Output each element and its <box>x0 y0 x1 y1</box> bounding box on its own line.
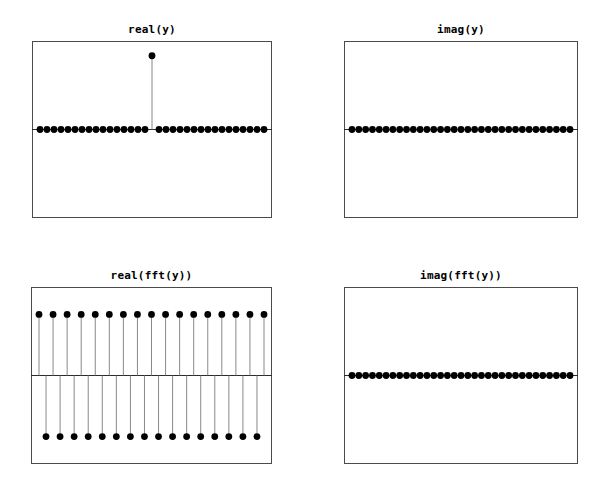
data-point-marker <box>567 126 574 133</box>
data-point-marker <box>498 372 505 379</box>
data-point-marker <box>205 126 212 133</box>
data-point-marker <box>71 433 78 440</box>
data-point-marker <box>464 126 471 133</box>
data-point-marker <box>505 372 512 379</box>
data-point-marker <box>240 126 247 133</box>
data-point-marker <box>225 433 232 440</box>
data-point-marker <box>526 372 533 379</box>
data-point-marker <box>492 372 499 379</box>
data-point-marker <box>219 126 226 133</box>
data-point-marker <box>349 372 356 379</box>
data-point-marker <box>437 372 444 379</box>
data-point-marker <box>430 126 437 133</box>
figure-canvas: real(y) imag(y) real(fft(y)) imag(fft(y)… <box>0 0 610 493</box>
data-point-marker <box>526 126 533 133</box>
data-point-marker <box>120 311 127 318</box>
data-point-marker <box>383 126 390 133</box>
data-point-marker <box>156 126 163 133</box>
data-point-marker <box>546 372 553 379</box>
data-point-marker <box>247 126 254 133</box>
data-point-marker <box>247 311 254 318</box>
panel-real-fft-y: real(fft(y)) <box>31 267 272 464</box>
data-point-marker <box>492 126 499 133</box>
data-point-marker <box>218 311 225 318</box>
data-point-marker <box>162 311 169 318</box>
data-point-marker <box>553 372 560 379</box>
data-point-marker <box>424 372 431 379</box>
plot-area-imag-fft-y <box>344 267 578 464</box>
data-point-marker <box>121 126 128 133</box>
data-point-marker <box>37 126 44 133</box>
panel-imag-y: imag(y) <box>344 21 578 218</box>
data-point-marker <box>533 372 540 379</box>
data-point-marker <box>424 126 431 133</box>
data-point-marker <box>512 372 519 379</box>
data-point-marker <box>226 126 233 133</box>
data-point-marker <box>155 433 162 440</box>
plot-area-real-fft-y <box>31 267 272 464</box>
data-point-marker <box>170 126 177 133</box>
data-point-marker <box>430 372 437 379</box>
data-point-marker <box>100 126 107 133</box>
data-point-marker <box>355 372 362 379</box>
data-point-marker <box>51 126 58 133</box>
data-point-marker <box>261 126 268 133</box>
data-point-marker <box>389 126 396 133</box>
data-point-marker <box>451 372 458 379</box>
data-point-marker <box>176 311 183 318</box>
data-point-marker <box>362 372 369 379</box>
data-point-marker <box>567 372 574 379</box>
data-point-marker <box>184 126 191 133</box>
data-point-marker <box>254 126 261 133</box>
data-point-marker <box>183 433 190 440</box>
data-point-marker <box>539 126 546 133</box>
data-point-marker <box>65 126 72 133</box>
data-point-marker <box>458 372 465 379</box>
data-point-marker <box>519 372 526 379</box>
data-point-marker <box>99 433 106 440</box>
data-point-marker <box>519 126 526 133</box>
data-point-marker <box>261 311 268 318</box>
data-point-marker <box>349 126 356 133</box>
data-point-marker <box>163 126 170 133</box>
data-point-marker <box>204 311 211 318</box>
data-point-marker <box>212 126 219 133</box>
data-point-marker <box>254 433 261 440</box>
data-point-marker <box>50 311 57 318</box>
data-point-marker <box>478 126 485 133</box>
data-point-marker <box>362 126 369 133</box>
data-point-marker <box>114 126 121 133</box>
data-point-marker <box>417 126 424 133</box>
data-point-marker <box>79 126 86 133</box>
data-point-marker <box>396 372 403 379</box>
data-point-marker <box>135 126 142 133</box>
data-point-marker <box>376 372 383 379</box>
data-point-marker <box>141 433 148 440</box>
data-point-marker <box>128 126 135 133</box>
data-point-marker <box>546 126 553 133</box>
data-point-marker <box>485 372 492 379</box>
data-point-marker <box>471 372 478 379</box>
data-point-marker <box>498 126 505 133</box>
data-point-marker <box>355 126 362 133</box>
data-point-marker <box>211 433 218 440</box>
data-point-marker <box>44 126 51 133</box>
data-point-marker <box>369 126 376 133</box>
data-point-marker <box>560 372 567 379</box>
panel-imag-fft-y: imag(fft(y)) <box>344 267 578 464</box>
data-point-marker <box>93 126 100 133</box>
data-point-marker <box>197 433 204 440</box>
data-point-marker <box>369 372 376 379</box>
panel-real-y: real(y) <box>32 21 272 218</box>
data-point-marker <box>177 126 184 133</box>
data-point-marker <box>512 126 519 133</box>
data-point-marker <box>464 372 471 379</box>
data-point-marker <box>232 311 239 318</box>
data-point-marker <box>471 126 478 133</box>
data-point-marker <box>36 311 43 318</box>
data-point-marker <box>403 126 410 133</box>
data-point-marker <box>410 372 417 379</box>
data-point-marker <box>148 311 155 318</box>
plot-area-real-y <box>32 21 272 218</box>
data-point-marker <box>127 433 134 440</box>
